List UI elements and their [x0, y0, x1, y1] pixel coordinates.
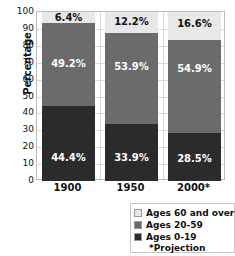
legend-item-ages-0-19[interactable]: Ages 0-19: [134, 231, 232, 242]
x-tick-2000: 2000*: [167, 182, 220, 193]
bar-label-1900-ages-20-59: 49.2%: [42, 58, 95, 69]
bar-label-1950-ages-0-19: 33.9%: [105, 152, 158, 163]
bar-segment-1950-ages-20-59[interactable]: [105, 33, 158, 124]
y-tick-20: 20: [12, 142, 34, 151]
bar-group-1950[interactable]: 12.2% 53.9% 33.9%: [105, 12, 158, 179]
legend-swatch-ages-60-and-over: [134, 209, 142, 217]
y-tick-60: 60: [12, 74, 34, 83]
bar-label-1950-ages-60-and-over: 12.2%: [105, 16, 158, 27]
y-tick-10: 10: [12, 159, 34, 168]
stacked-bar-chart: Percentage 100 90 80 70 60 50 40 30 20 1…: [0, 0, 235, 256]
legend-item-ages-20-59[interactable]: Ages 20-59: [134, 219, 232, 230]
y-tick-100: 100: [12, 7, 34, 16]
bar-segment-1900-ages-0-19[interactable]: [42, 106, 95, 181]
bar-label-2000-ages-60-and-over: 16.6%: [168, 18, 221, 29]
bar-group-1900[interactable]: 6.4% 49.2% 44.4%: [42, 12, 95, 179]
bar-label-1950-ages-20-59: 53.9%: [105, 61, 158, 72]
bar-label-1900-ages-60-and-over: 6.4%: [42, 12, 95, 23]
y-tick-40: 40: [12, 108, 34, 117]
x-tick-1900: 1900: [41, 182, 94, 193]
legend-swatch-ages-0-19: [134, 233, 142, 241]
y-tick-30: 30: [12, 125, 34, 134]
bar-segment-2000-ages-20-59[interactable]: [168, 40, 221, 133]
y-tick-0: 0: [12, 176, 34, 185]
legend-swatch-ages-20-59: [134, 221, 142, 229]
y-tick-90: 90: [12, 23, 34, 32]
bar-label-2000-ages-0-19: 28.5%: [168, 153, 221, 164]
y-tick-80: 80: [12, 40, 34, 49]
x-tick-1950: 1950: [104, 182, 157, 193]
bar-group-2000[interactable]: 16.6% 54.9% 28.5%: [168, 12, 221, 179]
x-axis-tick-labels: 1900 1950 2000*: [36, 182, 225, 198]
bar-label-1900-ages-0-19: 44.4%: [42, 152, 95, 163]
plot-area: 6.4% 49.2% 44.4% 12.2% 53.9% 33.9%: [36, 11, 225, 180]
legend-footnote: *Projection: [149, 243, 232, 253]
bar-label-2000-ages-20-59: 54.9%: [168, 63, 221, 74]
y-tick-50: 50: [12, 91, 34, 100]
y-axis-tick-labels: 100 90 80 70 60 50 40 30 20 10 0: [12, 0, 34, 184]
bars-layer: 6.4% 49.2% 44.4% 12.2% 53.9% 33.9%: [37, 12, 224, 179]
legend-label-ages-0-19: Ages 0-19: [146, 232, 197, 242]
legend-label-ages-20-59: Ages 20-59: [146, 220, 203, 230]
chart-legend: Ages 60 and over Ages 20-59 Ages 0-19 *P…: [130, 203, 235, 253]
legend-label-ages-60-and-over: Ages 60 and over: [146, 208, 234, 218]
y-tick-70: 70: [12, 57, 34, 66]
legend-item-ages-60-and-over[interactable]: Ages 60 and over: [134, 207, 232, 218]
